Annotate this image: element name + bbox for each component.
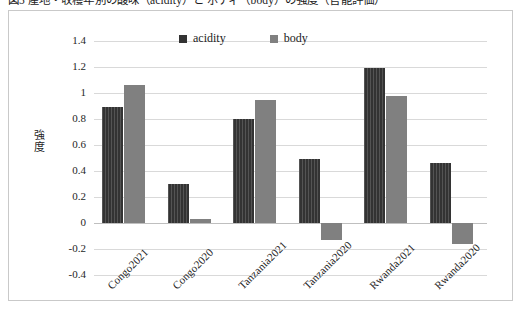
y-axis-tick-label: 0.6 [26,139,86,150]
x-axis-label-tanzania2021: Tanzania2021 [236,239,289,292]
gridline [94,67,487,68]
x-axis-label-tanzania2020: Tanzania2020 [301,239,354,292]
gridline [94,249,487,250]
bar-acidity-tanzania2020 [299,159,320,223]
bar-body-rwanda2021 [386,96,407,223]
chart-legend: acidity body [179,31,308,46]
legend-item-body: body [270,31,308,46]
y-axis-tick-label: -0.2 [26,243,86,254]
bar-acidity-rwanda2020 [430,163,451,223]
gridline [94,223,487,224]
y-axis-tick-label: 0.4 [26,165,86,176]
bar-acidity-tanzania2021 [233,119,254,223]
gridline [94,171,487,172]
legend-label-acidity: acidity [193,31,226,46]
y-axis-tick-label: 1.4 [26,35,86,46]
legend-label-body: body [284,31,308,46]
gridline [94,197,487,198]
legend-swatch-acidity [179,35,187,43]
y-axis-tick-label: 0.2 [26,191,86,202]
y-axis-tick-label: 1 [26,87,86,98]
legend-item-acidity: acidity [179,31,226,46]
bar-acidity-congo2020 [168,184,189,223]
y-axis-tick-label: 1.2 [26,61,86,72]
bar-body-tanzania2020 [321,223,342,240]
gridline [94,119,487,120]
bar-body-rwanda2020 [452,223,473,244]
y-axis-tick-label: 0.8 [26,113,86,124]
gridline [94,145,487,146]
bar-body-tanzania2021 [255,100,276,224]
bar-acidity-rwanda2021 [364,68,385,223]
x-axis-label-congo2020: Congo2020 [170,246,215,291]
bar-body-congo2021 [124,85,145,223]
x-axis-label-congo2021: Congo2021 [105,246,150,291]
gridline [94,93,487,94]
figure-caption-cropped: 図5 産地・収穫年別の酸味（acidity）と ボディ（body）の強度（官能評… [0,0,521,9]
legend-swatch-body [270,35,278,43]
bar-body-congo2020 [190,219,211,223]
y-axis-tick-label: -0.4 [26,269,86,280]
y-axis-tick-label: 0 [26,217,86,228]
bar-chart-plot-area: 強度 1.41.210.80.60.40.20-0.2-0.4 acidity … [9,11,512,300]
gridline [94,275,487,276]
figure-caption-text: 図5 産地・収穫年別の酸味（acidity）と ボディ（body）の強度（官能評… [8,0,385,7]
bar-acidity-congo2021 [102,107,123,223]
chart-frame: 強度 1.41.210.80.60.40.20-0.2-0.4 acidity … [8,10,513,301]
